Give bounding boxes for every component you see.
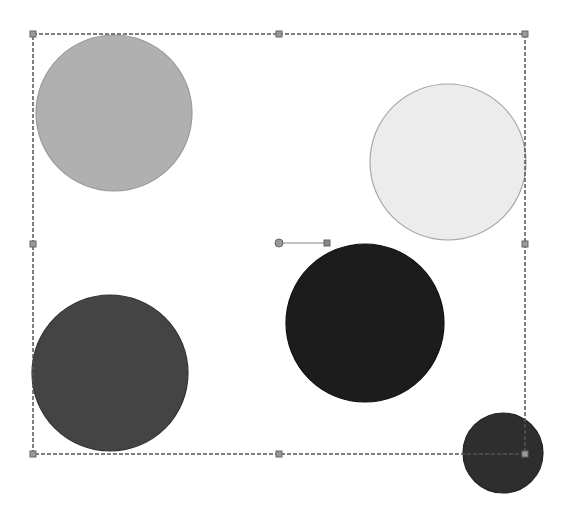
resize-handle-3[interactable] [30, 241, 36, 247]
resize-handle-7[interactable] [522, 451, 528, 457]
rotation-handle-icon[interactable] [275, 239, 283, 247]
resize-handle-0[interactable] [30, 31, 36, 37]
resize-handle-2[interactable] [522, 31, 528, 37]
resize-handle-5[interactable] [30, 451, 36, 457]
circle-light-gray[interactable] [36, 35, 192, 191]
circle-small-dark[interactable] [463, 413, 543, 493]
circle-near-white[interactable] [370, 84, 526, 240]
rotation-handle-end[interactable] [324, 240, 330, 246]
resize-handle-1[interactable] [276, 31, 282, 37]
circle-black[interactable] [286, 244, 444, 402]
resize-handle-6[interactable] [276, 451, 282, 457]
shapes-layer [32, 35, 543, 493]
resize-handle-4[interactable] [522, 241, 528, 247]
drawing-canvas[interactable] [0, 0, 567, 518]
circle-dark-gray[interactable] [32, 295, 188, 451]
